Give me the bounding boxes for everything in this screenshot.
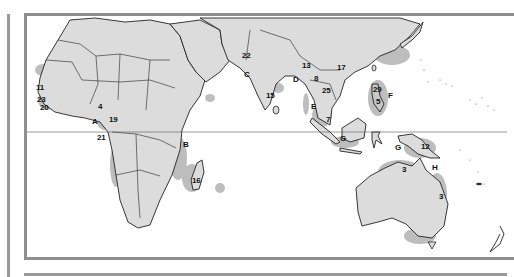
- region-label-E: E: [311, 103, 316, 111]
- region-label-7: 7: [326, 116, 330, 124]
- region-label-20: 20: [40, 104, 48, 112]
- region-label-29: 29: [373, 86, 381, 94]
- region-label-21: 21: [97, 134, 105, 142]
- asia-landmass: [200, 18, 420, 125]
- region-label-C: C: [244, 71, 249, 79]
- tasmania: [428, 242, 436, 249]
- region-label-4: 4: [98, 103, 102, 111]
- region-label-A: A: [92, 118, 97, 126]
- sri-lanka: [273, 106, 279, 114]
- africa-landmass: [38, 18, 205, 228]
- region-label-13: 13: [302, 62, 310, 70]
- region-label-5: 5: [376, 98, 380, 106]
- region-label-3-north: 3: [402, 166, 406, 174]
- sulawesi: [372, 132, 382, 148]
- region-label-15: 15: [266, 92, 274, 100]
- region-label-22: 22: [242, 52, 250, 60]
- region-label-19: 19: [109, 116, 117, 124]
- region-label-D: D: [293, 76, 298, 84]
- region-label-G-east: G: [395, 144, 401, 152]
- region-label-16: 16: [192, 177, 200, 185]
- region-label-F: F: [388, 92, 393, 100]
- region-label-3-east: 3: [439, 193, 443, 201]
- region-label-8: 8: [314, 75, 318, 83]
- region-label-G: G: [340, 135, 346, 143]
- region-label-H: H: [432, 164, 437, 172]
- new-zealand: [490, 226, 504, 252]
- region-label-25: 25: [322, 87, 330, 95]
- region-label-12: 12: [421, 143, 429, 151]
- region-label-B: B: [183, 141, 188, 149]
- region-label-17: 17: [337, 64, 345, 72]
- java: [340, 148, 362, 154]
- taiwan: [372, 65, 376, 71]
- region-label-11: 11: [36, 84, 44, 92]
